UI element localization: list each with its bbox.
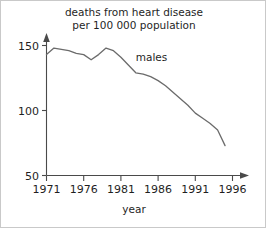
y-axis-arrow-icon — [43, 33, 50, 42]
x-axis — [47, 172, 250, 179]
y-tick-label-50: 50 — [25, 170, 39, 183]
plot-area: 150 100 50 1971 1976 1981 1986 1991 1996… — [1, 1, 266, 228]
chart-figure: deaths from heart disease per 100 000 po… — [0, 0, 266, 228]
x-axis-title: year — [122, 203, 146, 215]
series-annotation-males: males — [136, 51, 168, 63]
x-tick-label-1996: 1996 — [219, 183, 247, 196]
x-tick-labels: 1971 1976 1981 1986 1991 1996 — [33, 183, 247, 196]
x-tick-marks — [47, 176, 233, 182]
x-axis-arrow-icon — [240, 172, 249, 179]
y-tick-label-100: 100 — [18, 105, 39, 118]
y-tick-labels: 150 100 50 — [18, 40, 39, 183]
x-tick-label-1991: 1991 — [181, 183, 209, 196]
x-tick-label-1976: 1976 — [70, 183, 98, 196]
x-tick-label-1986: 1986 — [144, 183, 172, 196]
x-tick-label-1981: 1981 — [107, 183, 135, 196]
y-tick-label-150: 150 — [18, 40, 39, 53]
x-tick-label-1971: 1971 — [33, 183, 61, 196]
y-tick-marks — [42, 46, 47, 176]
